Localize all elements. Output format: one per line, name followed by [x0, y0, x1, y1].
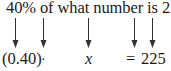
down-arrow-icon [12, 18, 19, 48]
down-arrow-icon [131, 18, 138, 48]
down-arrow-icon [40, 18, 47, 48]
word-problem-question: 40% of what number is 225? [6, 0, 171, 17]
equation-equals-sign: = [126, 50, 135, 68]
equation-value: 225 [141, 50, 166, 68]
equation-multiplication-dot: · [41, 51, 46, 69]
down-arrow-icon [149, 18, 156, 48]
equation-percent-decimal: (0.40) [2, 50, 42, 68]
equation-variable: x [85, 50, 92, 68]
down-arrow-icon [85, 18, 92, 48]
